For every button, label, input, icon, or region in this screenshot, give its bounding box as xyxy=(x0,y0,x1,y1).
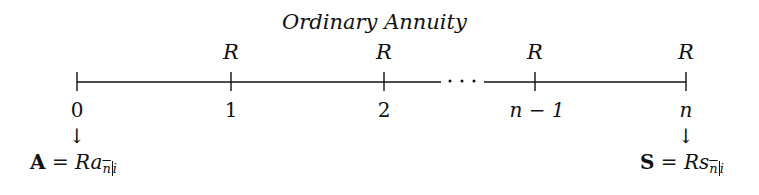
period-label-0: 0 xyxy=(71,98,84,122)
payment-label-2: R xyxy=(376,40,392,64)
payment-label-1: R xyxy=(223,40,239,64)
period-label-2: 2 xyxy=(378,98,391,122)
down-arrow-icon: ↓ xyxy=(678,124,695,148)
payment-label-n-minus-1: R xyxy=(527,40,543,64)
future-value-formula: S = Rsni xyxy=(640,150,724,174)
down-arrow-icon: ↓ xyxy=(69,124,86,148)
payment-label-n: R xyxy=(678,40,694,64)
annuity-timeline-diagram: Ordinary Annuity R R R R 0 1 2 n − 1 n ↓… xyxy=(0,0,759,195)
period-label-n-minus-1: n − 1 xyxy=(509,98,564,122)
present-value-formula: A = Rani xyxy=(30,150,117,174)
period-label-1: 1 xyxy=(225,98,238,122)
period-label-n: n xyxy=(680,98,693,122)
